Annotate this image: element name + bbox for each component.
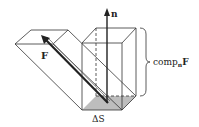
force-vector (41, 35, 110, 103)
flux-diagram: n F ΔS compnF (0, 0, 199, 127)
area-label: ΔS (92, 114, 105, 124)
normal-arrowhead-icon (104, 8, 110, 16)
normal-label: n (111, 9, 118, 19)
component-label-vec: F (182, 57, 189, 67)
force-label: F (41, 50, 48, 61)
component-brace (140, 28, 150, 96)
component-label-text: comp (153, 57, 178, 67)
normal-vector (104, 8, 110, 103)
component-label: compnF (153, 57, 189, 68)
